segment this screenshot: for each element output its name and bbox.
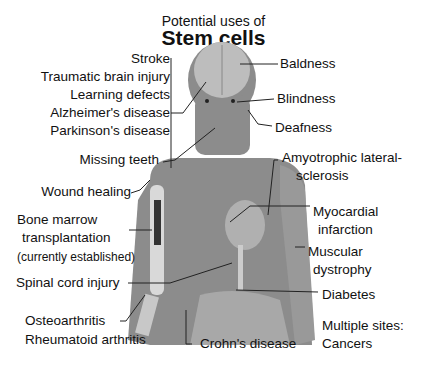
label-alzheimers: Alzheimer's disease xyxy=(50,105,170,121)
label-learning: Learning defects xyxy=(70,87,170,103)
label-rheum: Rheumatoid arthritis xyxy=(25,332,146,348)
label-spinal: Spinal cord injury xyxy=(16,275,120,291)
label-tbi: Traumatic brain injury xyxy=(41,69,170,85)
label-crohn: Crohn's disease xyxy=(200,336,296,352)
label-als1: Amyotrophic lateral- xyxy=(282,150,402,166)
label-md2: dystrophy xyxy=(313,262,372,278)
label-teeth: Missing teeth xyxy=(79,152,159,168)
label-mi1: Myocardial xyxy=(313,204,378,220)
label-diabetes: Diabetes xyxy=(322,287,375,303)
label-bone1: Bone marrow xyxy=(17,212,97,228)
label-deafness: Deafness xyxy=(275,120,332,136)
label-bone2: transplantation xyxy=(22,230,111,246)
label-stroke: Stroke xyxy=(131,51,170,67)
label-blindness: Blindness xyxy=(277,91,336,107)
label-md1: Muscular xyxy=(308,244,363,260)
label-osteo: Osteoarthritis xyxy=(25,313,105,329)
label-parkinsons: Parkinson's disease xyxy=(50,123,170,139)
label-wound: Wound healing xyxy=(41,184,131,200)
label-multi2: Cancers xyxy=(322,336,372,352)
label-als2: sclerosis xyxy=(296,168,349,184)
label-bone3: (currently established) xyxy=(17,249,135,265)
label-mi2: infarction xyxy=(318,222,373,238)
label-baldness: Baldness xyxy=(280,56,336,72)
label-multi1: Multiple sites: xyxy=(322,318,404,334)
